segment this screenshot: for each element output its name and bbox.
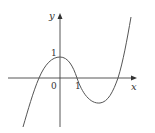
x-axis-arrow-icon (131, 76, 137, 81)
function-curve (23, 17, 131, 127)
function-graph: y x 0 1 1 (0, 0, 155, 133)
y-tick-1-label: 1 (51, 48, 57, 58)
y-axis-label: y (48, 10, 55, 21)
y-axis-arrow-icon (58, 13, 63, 19)
origin-label: 0 (51, 81, 57, 91)
x-tick-1-label: 1 (75, 81, 81, 91)
x-axis-label: x (131, 81, 137, 92)
